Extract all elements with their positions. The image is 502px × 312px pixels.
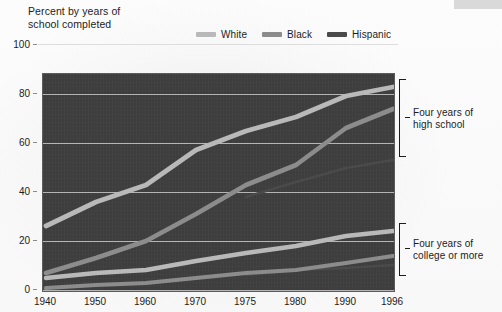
x-tick-1950: 1950	[73, 296, 117, 307]
x-tick-1970: 1970	[173, 296, 217, 307]
y-tick-mark-40	[33, 191, 37, 192]
y-tick-mark-80	[33, 93, 37, 94]
y-tick-0: 0	[0, 284, 30, 295]
legend-label-hispanic: Hispanic	[352, 29, 391, 40]
x-tick-1940: 1940	[23, 296, 67, 307]
y-tick-20: 20	[0, 235, 30, 246]
y-tick-mark-60	[33, 142, 37, 143]
y-tick-mark-100	[33, 44, 37, 45]
gridline-100	[38, 44, 398, 45]
chart-legend: White Black Hispanic	[196, 29, 391, 40]
x-tick-1975: 1975	[223, 296, 267, 307]
legend-swatch-hispanic	[327, 32, 347, 37]
legend-item-white: White	[196, 29, 247, 40]
annotation-college: Four years of college or more	[413, 238, 483, 262]
legend-item-black: Black	[262, 29, 312, 40]
line-highschool-black	[46, 109, 393, 273]
plot-area	[42, 73, 395, 292]
y-tick-100: 100	[0, 39, 30, 50]
y-tick-80: 80	[0, 88, 30, 99]
y-tick-mark-20	[33, 240, 37, 241]
x-tick-1996: 1996	[370, 296, 414, 307]
legend-label-black: Black	[287, 29, 312, 40]
plot-lines	[43, 74, 395, 292]
legend-item-hispanic: Hispanic	[327, 29, 391, 40]
chart-figure: Percent by years of school completed Whi…	[0, 0, 502, 312]
chart-title: Percent by years of school completed	[28, 5, 120, 30]
x-tick-1960: 1960	[123, 296, 167, 307]
y-tick-60: 60	[0, 137, 30, 148]
line-highschool-white	[46, 87, 393, 226]
bracket-tick-high-school	[405, 117, 410, 118]
legend-swatch-black	[262, 32, 282, 37]
x-tick-1980: 1980	[273, 296, 317, 307]
legend-swatch-white	[196, 32, 216, 37]
y-tick-mark-0	[33, 289, 37, 290]
bracket-college	[399, 223, 406, 276]
line-college-white	[46, 231, 393, 278]
annotation-high-school: Four years of high school	[413, 107, 473, 131]
y-tick-40: 40	[0, 186, 30, 197]
legend-label-white: White	[221, 29, 247, 40]
bracket-tick-college	[405, 248, 410, 249]
x-tick-1990: 1990	[323, 296, 367, 307]
